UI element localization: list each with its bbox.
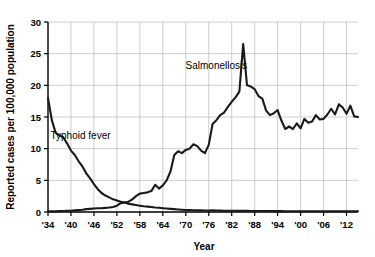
- series-annotations: SalmonellosisTyphoid fever: [51, 60, 248, 141]
- typhoid-label: Typhoid fever: [51, 130, 112, 141]
- salmonellosis-label: Salmonellosis: [186, 60, 248, 71]
- x-tick-label: '64: [156, 219, 170, 230]
- x-tick-label: '94: [271, 219, 285, 230]
- series-line-typhoid-fever: [48, 98, 358, 211]
- y-tick-label: 0: [36, 207, 41, 218]
- y-tick-label: 5: [36, 175, 42, 186]
- y-tick-label: 30: [30, 17, 41, 28]
- x-tick-label: '58: [133, 219, 146, 230]
- x-tick-labels: '34'40'46'52'58'64'70'76'82'88'94'00'06'…: [42, 219, 353, 230]
- tick-marks: [44, 22, 347, 216]
- y-tick-label: 25: [30, 48, 41, 59]
- y-tick-labels: 051015202530: [30, 17, 41, 218]
- x-tick-label: '82: [225, 219, 238, 230]
- x-tick-label: '76: [202, 219, 215, 230]
- x-axis-title: Year: [193, 241, 214, 252]
- salmonellosis-typhoid-line-chart: 051015202530 '34'40'46'52'58'64'70'76'82…: [0, 0, 375, 257]
- x-tick-label: '88: [248, 219, 261, 230]
- chart-container: 051015202530 '34'40'46'52'58'64'70'76'82…: [0, 0, 375, 257]
- x-tick-label: '06: [317, 219, 330, 230]
- y-tick-label: 20: [30, 80, 41, 91]
- y-axis-title: Reported cases per 100,000 population: [5, 24, 16, 210]
- x-tick-label: '46: [88, 219, 101, 230]
- x-tick-label: '34: [42, 219, 56, 230]
- x-tick-label: '40: [65, 219, 78, 230]
- x-tick-label: '12: [340, 219, 353, 230]
- x-tick-label: '00: [294, 219, 307, 230]
- x-tick-label: '52: [110, 219, 123, 230]
- y-tick-label: 10: [30, 143, 41, 154]
- y-tick-label: 15: [30, 112, 41, 123]
- x-tick-label: '70: [179, 219, 192, 230]
